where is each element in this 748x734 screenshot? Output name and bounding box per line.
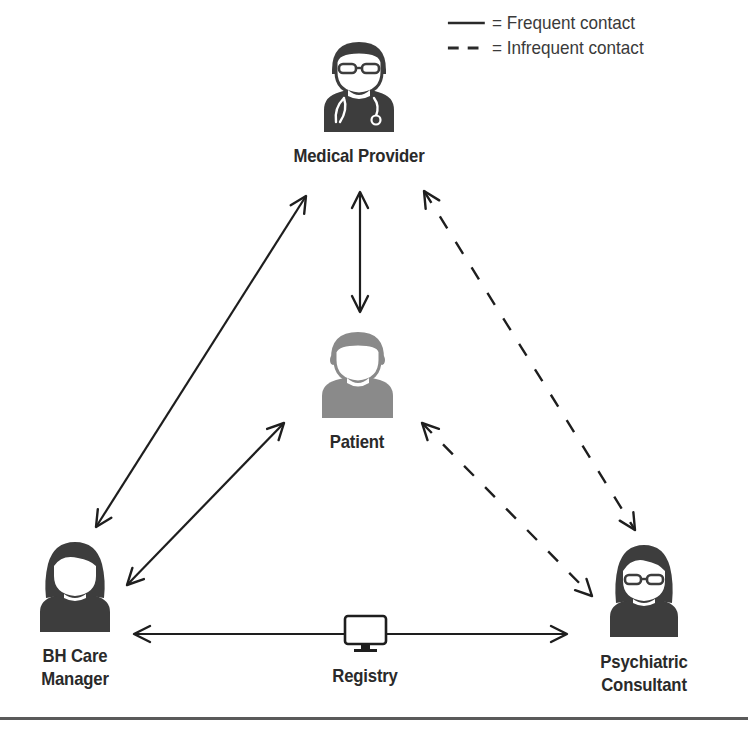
bh-care-manager-label-line2: Manager — [13, 667, 136, 690]
bh-care-manager-label-line1: BH Care — [13, 644, 136, 667]
diagram-canvas — [0, 0, 748, 734]
legend: = Frequent contact = Infrequent contact — [447, 10, 644, 60]
psychiatric-consultant-label-line1: Psychiatric — [582, 650, 705, 673]
patient-label: Patient — [313, 430, 401, 453]
bottom-divider — [0, 717, 748, 720]
woman-icon — [40, 542, 110, 632]
legend-label-frequent: = Frequent contact — [492, 10, 635, 35]
solid-line-swatch — [447, 18, 487, 28]
computer-monitor-icon — [345, 616, 386, 652]
psychiatric-consultant-label: Psychiatric Consultant — [582, 650, 705, 696]
edge-medical-psych — [424, 191, 635, 530]
doctor-with-stethoscope-icon — [324, 42, 394, 132]
edge-patient-bhcm — [127, 423, 284, 585]
person-icon — [322, 332, 393, 418]
legend-label-infrequent: = Infrequent contact — [492, 35, 644, 60]
medical-provider-label: Medical Provider — [271, 144, 447, 167]
registry-label: Registry — [321, 664, 409, 687]
dashed-line-swatch — [447, 43, 487, 53]
woman-with-glasses-icon — [610, 545, 678, 637]
legend-item-infrequent: = Infrequent contact — [447, 35, 644, 60]
edge-medical-bhcm — [96, 196, 306, 527]
legend-item-frequent: = Frequent contact — [447, 10, 644, 35]
care-team-diagram: = Frequent contact = Infrequent contact … — [0, 0, 748, 734]
edge-patient-psych — [422, 423, 592, 596]
psychiatric-consultant-label-line2: Consultant — [582, 673, 705, 696]
bh-care-manager-label: BH Care Manager — [13, 644, 136, 690]
